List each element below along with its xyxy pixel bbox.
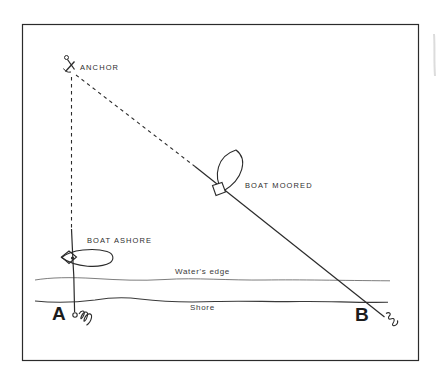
rope-to-a-line [72, 229, 75, 312]
point-b-label: B [355, 305, 369, 324]
point-a-label: A [52, 304, 66, 323]
scan-artifact [434, 34, 435, 76]
shore-line [35, 298, 388, 303]
shore-label: Shore [190, 304, 215, 312]
waters-edge-label: Water's edge [175, 268, 230, 276]
mooring-diagram: ANCHOR BOAT MOORED BOAT ASHORE Water's e… [0, 0, 439, 380]
rope-coil-icon [73, 311, 92, 325]
boat-ashore-label: BOAT ASHORE [87, 237, 152, 245]
boat-moored-label: BOAT MOORED [245, 182, 313, 190]
anchor-icon [64, 56, 75, 73]
anchor-rode-dashed [76, 75, 195, 167]
anchor-label: ANCHOR [80, 64, 119, 72]
rope-end-icon [386, 313, 398, 326]
bow-attachment-dot [71, 256, 74, 259]
